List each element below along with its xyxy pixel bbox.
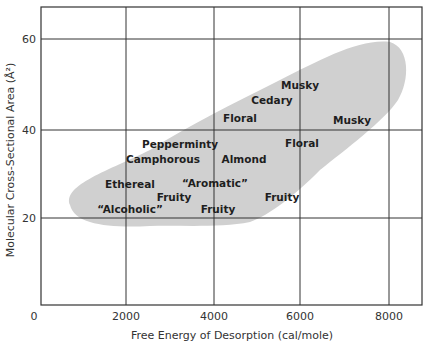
x-axis-label: Free Energy of Desorption (cal/mole) [131, 329, 333, 342]
y-axis-label: Molecular Cross-Sectional Area (Å²) [4, 63, 17, 258]
label-musky-2: Musky [333, 114, 371, 126]
x-tick-0: 0 [31, 310, 38, 323]
label-floral-1: Floral [223, 112, 257, 124]
label-fruity-3: Fruity [201, 203, 236, 215]
label-musky-1: Musky [281, 79, 319, 91]
label-camphorous: Camphorous [126, 153, 200, 165]
label-almond: Almond [222, 153, 267, 165]
x-tick-2000: 2000 [112, 310, 140, 323]
label-pepperminty: Pepperminty [142, 138, 218, 150]
odor-region-shading [69, 42, 406, 227]
y-tick-60: 60 [22, 33, 36, 46]
y-axis-ticks: 60 40 20 [22, 33, 36, 225]
x-tick-4000: 4000 [200, 310, 228, 323]
label-cedary: Cedary [251, 94, 293, 106]
odor-scatter-chart: 60 40 20 0 2000 4000 6000 8000 Free Ener… [0, 0, 424, 347]
label-alcoholic: “Alcoholic” [97, 203, 163, 215]
x-tick-8000: 8000 [375, 310, 403, 323]
label-fruity-1: Fruity [157, 191, 192, 203]
y-tick-20: 20 [22, 212, 36, 225]
label-aromatic: “Aromatic” [182, 177, 248, 189]
x-tick-6000: 6000 [286, 310, 314, 323]
label-ethereal: Ethereal [105, 178, 155, 190]
label-floral-2: Floral [285, 137, 319, 149]
x-axis-ticks: 0 2000 4000 6000 8000 [31, 310, 404, 323]
label-fruity-2: Fruity [265, 191, 300, 203]
y-tick-40: 40 [22, 124, 36, 137]
